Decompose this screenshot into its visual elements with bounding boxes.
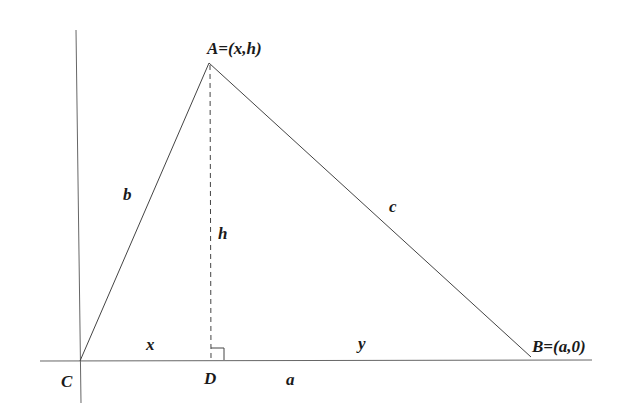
label-point-c: C: [61, 372, 73, 391]
triangle-diagram: A=(x,h) B=(a,0) C D b c a h x y: [0, 0, 623, 419]
horizontal-axis: [40, 360, 592, 361]
label-point-b: B=(a,0): [531, 337, 586, 356]
side-c: [209, 63, 531, 357]
label-side-a: a: [286, 370, 295, 389]
label-height-h: h: [218, 224, 227, 243]
label-segment-y: y: [356, 334, 366, 353]
altitude-h: [210, 65, 211, 360]
label-side-b: b: [123, 185, 132, 204]
triangle-abc: [80, 63, 531, 361]
label-side-c: c: [389, 197, 397, 216]
label-point-a: A=(x,h): [206, 39, 262, 58]
right-angle-marker: [211, 348, 224, 360]
label-point-d: D: [203, 369, 216, 388]
side-b: [80, 63, 209, 361]
vertical-axis: [76, 30, 81, 403]
label-segment-x: x: [145, 335, 155, 354]
coordinate-axes: [40, 30, 592, 403]
